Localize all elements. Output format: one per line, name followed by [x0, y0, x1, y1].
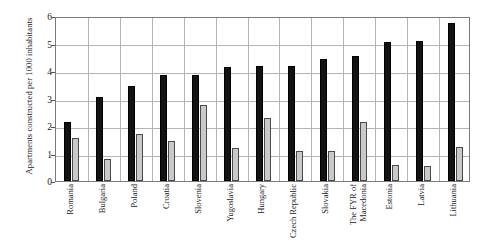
x-axis-label: Romania	[66, 184, 76, 215]
x-axis-category-labels: RomaniaBulgariaPolandCroatiaSloveniaYugo…	[55, 184, 470, 248]
x-label-slot: Hungary	[247, 184, 279, 248]
bar-chart: Apartments constructed per 1000 inhabita…	[0, 0, 491, 248]
y-tick-mark	[51, 17, 55, 18]
x-label-slot: Romania	[55, 184, 87, 248]
bar-light	[424, 166, 431, 181]
x-label-slot: Slovenia	[183, 184, 215, 248]
x-axis-label: Slovenia	[194, 184, 204, 214]
y-tick-mark	[51, 155, 55, 156]
y-axis-tick-labels: 0123456	[36, 11, 52, 187]
bar-dark	[64, 122, 71, 181]
bar-group	[120, 18, 152, 181]
bar-group	[439, 18, 471, 181]
x-axis-label: Yugoslavia	[226, 184, 236, 222]
bar-light	[200, 105, 207, 181]
bar-dark	[96, 97, 103, 181]
x-axis-label: Estonia	[385, 184, 395, 210]
bar-dark	[352, 56, 359, 181]
x-label-slot: Croatia	[151, 184, 183, 248]
bar-dark	[192, 75, 199, 181]
y-tick-label: 2	[36, 121, 52, 133]
y-tick-mark	[51, 72, 55, 73]
x-label-slot: Yugoslavia	[215, 184, 247, 248]
x-axis-label: The FYR of Macedonia	[349, 184, 368, 244]
bar-light	[264, 118, 271, 181]
bar-dark	[256, 66, 263, 182]
x-axis-label: Slovakia	[322, 184, 332, 214]
x-label-slot: Czech Republic	[278, 184, 310, 248]
bar-group	[152, 18, 184, 181]
bar-group	[216, 18, 248, 181]
x-axis-label: Czech Republic	[290, 184, 300, 238]
x-axis-label: Latvia	[417, 184, 427, 206]
bar-light	[328, 151, 335, 181]
y-tick-label: 1	[36, 149, 52, 161]
y-tick-label: 3	[36, 94, 52, 106]
y-tick-label: 6	[36, 11, 52, 23]
bar-dark	[288, 66, 295, 182]
bar-light	[296, 151, 303, 181]
bar-group	[248, 18, 280, 181]
y-tick-mark	[51, 100, 55, 101]
x-label-slot: Slovakia	[310, 184, 342, 248]
bar-dark	[224, 67, 231, 181]
x-axis-label: Hungary	[258, 184, 268, 214]
y-tick-label: 0	[36, 176, 52, 188]
x-label-slot: The FYR of Macedonia	[342, 184, 374, 248]
x-axis-label: Lithuania	[449, 184, 459, 217]
y-tick-mark	[51, 45, 55, 46]
x-axis-label: Croatia	[162, 184, 172, 209]
bar-dark	[384, 42, 391, 181]
bar-group	[407, 18, 439, 181]
bar-light	[72, 138, 79, 181]
plot-area	[55, 17, 470, 182]
bar-group	[184, 18, 216, 181]
x-label-slot: Lithuania	[438, 184, 470, 248]
bar-light	[360, 122, 367, 181]
x-label-slot: Bulgaria	[87, 184, 119, 248]
y-tick-label: 4	[36, 66, 52, 78]
x-axis-label: Bulgaria	[98, 184, 108, 213]
bars-layer	[56, 18, 469, 181]
y-tick-label: 5	[36, 39, 52, 51]
bar-light	[456, 147, 463, 181]
bar-group	[279, 18, 311, 181]
y-tick-mark	[51, 127, 55, 128]
x-label-slot: Poland	[119, 184, 151, 248]
bar-dark	[448, 23, 455, 181]
bar-group	[343, 18, 375, 181]
bar-group	[88, 18, 120, 181]
bar-group	[375, 18, 407, 181]
bar-light	[232, 148, 239, 181]
bar-light	[392, 165, 399, 182]
bar-dark	[416, 41, 423, 181]
x-label-slot: Estonia	[374, 184, 406, 248]
bar-group	[311, 18, 343, 181]
bar-light	[104, 159, 111, 181]
x-label-slot: Latvia	[406, 184, 438, 248]
bar-light	[168, 141, 175, 181]
bar-group	[56, 18, 88, 181]
bar-dark	[128, 86, 135, 181]
bar-dark	[160, 75, 167, 181]
bar-dark	[320, 59, 327, 181]
bar-light	[136, 134, 143, 181]
y-tick-mark	[51, 182, 55, 183]
x-axis-label: Poland	[130, 184, 140, 208]
